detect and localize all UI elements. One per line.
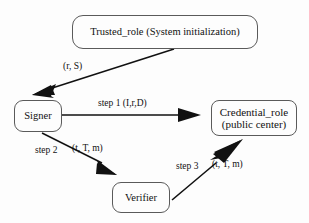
node-credential-role-label-line1: Credential_role	[220, 106, 288, 118]
edge-label-step-3-payload: (t, T, m)	[212, 159, 243, 169]
edge-label-step-3-step: step 3	[176, 161, 198, 171]
edge-label-step-2-payload: (t, T, m)	[72, 143, 103, 153]
node-credential-role[interactable]: Credential_role (public center)	[211, 100, 297, 136]
node-verifier[interactable]: Verifier	[112, 182, 170, 213]
edge-label-trusted-to-signer: (r, S)	[63, 61, 82, 71]
edge-trusted-to-signer	[32, 49, 174, 98]
diagram-canvas: Trusted_role (System initialization) Sig…	[0, 0, 309, 223]
node-credential-role-label-line2: (public center)	[222, 118, 286, 130]
node-trusted-role[interactable]: Trusted_role (System initialization)	[72, 15, 258, 49]
node-verifier-label: Verifier	[125, 192, 157, 204]
edge-label-step-1: step 1 (I,r,D)	[98, 98, 147, 108]
node-signer-label: Signer	[24, 110, 51, 122]
edge-label-step-2-step: step 2	[35, 145, 57, 155]
node-signer[interactable]: Signer	[14, 100, 62, 132]
edge-signer-to-credential	[62, 108, 201, 122]
node-trusted-role-label: Trusted_role (System initialization)	[90, 26, 240, 38]
